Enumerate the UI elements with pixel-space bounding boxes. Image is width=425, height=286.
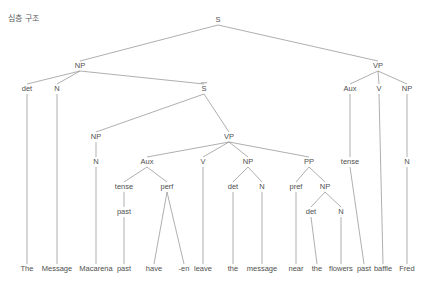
tree-node-label: past bbox=[117, 207, 132, 216]
tree-edge bbox=[378, 71, 407, 84]
tree-node-layer: SNPVPdetNSAuxVNPNPVPNAuxVNPPPtenseperfde… bbox=[22, 15, 412, 216]
tree-terminal-label: past bbox=[117, 264, 132, 273]
tree-edge bbox=[147, 167, 167, 182]
tree-terminal-label: near bbox=[288, 264, 304, 273]
tree-edge bbox=[378, 71, 379, 84]
tree-edge bbox=[96, 94, 204, 132]
tree-node-label: V bbox=[200, 157, 205, 166]
tree-terminal-label: the bbox=[312, 264, 322, 273]
tree-terminal-label: past bbox=[357, 264, 372, 273]
tree-edge bbox=[296, 167, 309, 182]
tree-node-label: det bbox=[228, 182, 239, 191]
tree-terminal-stem bbox=[350, 167, 364, 264]
tree-node-label: det bbox=[306, 207, 317, 216]
tree-node-label: N bbox=[404, 157, 409, 166]
tree-node-label: NP bbox=[402, 84, 412, 93]
tree-node-label: NP bbox=[320, 182, 330, 191]
tree-node-label: NP bbox=[243, 157, 253, 166]
tree-terminal-label: flowers bbox=[329, 264, 353, 273]
diagram-caption: 심층 구조 bbox=[8, 12, 40, 23]
tree-terminal-stem bbox=[379, 94, 383, 264]
tree-terminal-label: message bbox=[247, 264, 277, 273]
tree-edge bbox=[218, 25, 378, 61]
tree-node-label: PP bbox=[304, 157, 314, 166]
tree-edge bbox=[80, 25, 218, 61]
tree-edge bbox=[248, 167, 262, 182]
tree-node-label: NP bbox=[75, 61, 85, 70]
tree-node-label: N bbox=[93, 157, 98, 166]
tree-edge bbox=[27, 71, 80, 84]
tree-node-label: VP bbox=[224, 132, 234, 141]
tree-node-label: V bbox=[376, 84, 381, 93]
tree-edge bbox=[57, 71, 80, 84]
tree-node-label: S bbox=[215, 15, 220, 24]
tree-terminal-label: Macarena bbox=[79, 264, 113, 273]
tree-terminal-label: The bbox=[21, 264, 34, 273]
tree-node-label: Aux bbox=[344, 84, 357, 93]
tree-node-label: VP bbox=[373, 61, 383, 70]
tree-node-label: S bbox=[201, 84, 206, 93]
tree-edge bbox=[350, 71, 378, 84]
tree-terminal-stem bbox=[167, 192, 184, 264]
tree-edge bbox=[233, 167, 248, 182]
tree-terminal-label: have bbox=[146, 264, 162, 273]
tree-node-label: N bbox=[259, 182, 264, 191]
tree-terminal-label: -en bbox=[179, 264, 190, 273]
tree-node-label: N bbox=[338, 207, 343, 216]
tree-edge bbox=[325, 192, 341, 207]
syntax-tree-diagram: 심층 구조 SNPVPdetNSAuxVNPNPVPNAuxVNPPPtense… bbox=[0, 0, 425, 286]
tree-node-label: det bbox=[22, 84, 33, 93]
tree-node-label: perf bbox=[161, 182, 175, 191]
tree-edge bbox=[309, 167, 325, 182]
tree-node-label: pref bbox=[290, 182, 304, 191]
tree-node-label: Aux bbox=[141, 157, 154, 166]
tree-node-label: tense bbox=[341, 157, 359, 166]
tree-terminal-label: leave bbox=[194, 264, 212, 273]
tree-edge bbox=[204, 94, 229, 132]
tree-node-label: N bbox=[54, 84, 59, 93]
tree-terminal-label: Message bbox=[42, 264, 72, 273]
tree-terminal-stem bbox=[154, 192, 167, 264]
tree-terminal-label: Fred bbox=[399, 264, 414, 273]
tree-terminal-stem bbox=[311, 217, 317, 264]
tree-terminal-label: baffle bbox=[374, 264, 392, 273]
tree-node-label: NP bbox=[91, 132, 101, 141]
tree-node-label: tense bbox=[115, 182, 133, 191]
syntax-tree-canvas: SNPVPdetNSAuxVNPNPVPNAuxVNPPPtenseperfde… bbox=[0, 0, 425, 286]
tree-edge bbox=[311, 192, 325, 207]
tree-terminal-label: the bbox=[228, 264, 238, 273]
tree-edge bbox=[124, 167, 147, 182]
tree-edge bbox=[80, 71, 204, 84]
tree-edge bbox=[229, 142, 248, 157]
tree-terminal-layer: TheMessageMacarenapasthave-enleavethemes… bbox=[21, 264, 415, 273]
tree-edge bbox=[229, 142, 309, 157]
